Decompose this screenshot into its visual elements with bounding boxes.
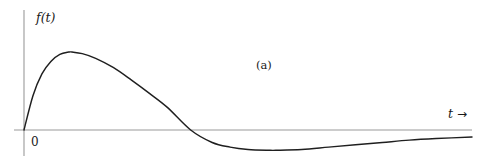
- figure-panel-a: f(t) 0 (a) t →: [0, 0, 495, 168]
- curve-line: [24, 52, 472, 151]
- plot-area: [0, 0, 495, 168]
